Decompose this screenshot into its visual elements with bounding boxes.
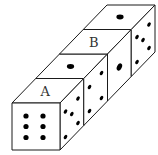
die-4-top-pip-one [116, 15, 123, 20]
pip [40, 113, 45, 118]
pip [40, 124, 45, 129]
pip [40, 135, 45, 140]
label-b: B [89, 35, 99, 50]
pip [23, 124, 28, 129]
dice-row-diagram: A B [0, 0, 158, 155]
die-1-front-face [12, 103, 60, 150]
label-a: A [40, 84, 51, 99]
pip [23, 135, 28, 140]
pip [23, 113, 28, 118]
die-2-top-pip-one [67, 64, 74, 69]
